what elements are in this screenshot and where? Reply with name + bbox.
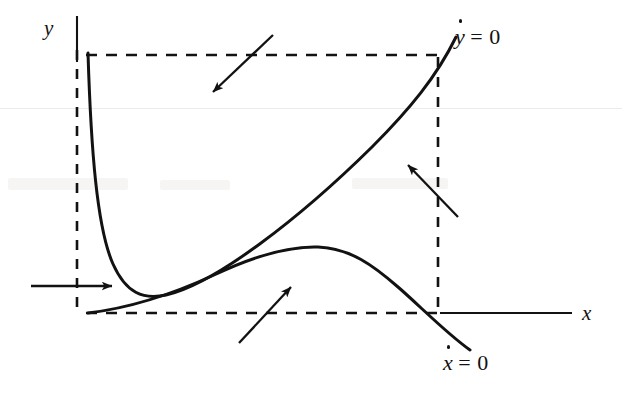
arrow-top-region (213, 35, 273, 92)
derivative-dot-icon (447, 345, 450, 348)
ydot-equation: = 0 (470, 24, 500, 49)
ydot-variable: y (455, 26, 465, 48)
arrow-bottom-region (239, 287, 291, 343)
xdot-nullcline-label: x = 0 (443, 352, 489, 374)
ydot-nullcline-label: y = 0 (455, 26, 501, 48)
y-axis-label: y (44, 18, 53, 39)
xdot-variable: x (443, 352, 453, 374)
derivative-dot-icon (459, 19, 462, 22)
ydot-nullcline-curve (88, 37, 456, 296)
phase-plane-canvas (0, 0, 622, 400)
xdot-equation: = 0 (458, 350, 488, 375)
arrow-right-region (408, 165, 458, 217)
x-axis-label: x (582, 303, 591, 324)
phase-plane-figure: y x y = 0 x = 0 (0, 0, 622, 400)
